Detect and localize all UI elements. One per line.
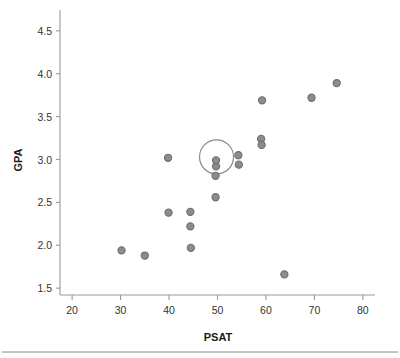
- y-tick-label: 1.5: [37, 282, 52, 294]
- x-tick-label: 20: [66, 304, 78, 316]
- x-tick-label: 40: [163, 304, 175, 316]
- data-point: [187, 223, 194, 230]
- data-point: [212, 157, 219, 164]
- data-point: [164, 154, 171, 161]
- y-tick-label: 2.5: [37, 196, 52, 208]
- scatter-plot-figure: 1.52.02.53.03.54.04.520304050607080 GPA …: [0, 0, 400, 358]
- x-axis-label: PSAT: [204, 331, 233, 343]
- data-point: [187, 208, 194, 215]
- data-point: [212, 194, 219, 201]
- data-point: [118, 247, 125, 254]
- data-point: [308, 94, 315, 101]
- y-tick-label: 3.5: [37, 111, 52, 123]
- data-point: [187, 244, 194, 251]
- x-tick-label: 50: [212, 304, 224, 316]
- data-point: [235, 161, 242, 168]
- data-point: [212, 172, 219, 179]
- data-point: [333, 80, 340, 87]
- x-tick-label: 70: [309, 304, 321, 316]
- y-tick-label: 4.0: [37, 68, 52, 80]
- data-point: [141, 252, 148, 259]
- data-point: [235, 152, 242, 159]
- data-point: [281, 271, 288, 278]
- data-point: [258, 97, 265, 104]
- y-tick-label: 2.0: [37, 239, 52, 251]
- y-tick-label: 4.5: [37, 25, 52, 37]
- y-tick-label: 3.0: [37, 154, 52, 166]
- x-tick-label: 60: [260, 304, 272, 316]
- data-point: [258, 141, 265, 148]
- y-axis-label: GPA: [12, 148, 24, 171]
- x-tick-label: 80: [357, 304, 369, 316]
- data-point: [165, 209, 172, 216]
- x-tick-label: 30: [115, 304, 127, 316]
